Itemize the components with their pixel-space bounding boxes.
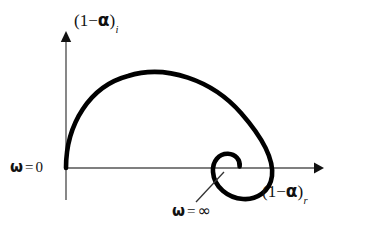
omega-infinity-symbol: ω — [172, 202, 185, 220]
y-axis-label-subscript: i — [115, 24, 118, 35]
figure-container: (1−α)i (1−α)r ω=0 ω=∞ — [0, 0, 378, 230]
omega-zero-annotation: ω=0 — [10, 160, 43, 175]
polar-plot-svg — [0, 0, 378, 230]
omega-infinity-annotation: ω=∞ — [172, 203, 211, 219]
y-axis-label-prefix: (1− — [74, 11, 98, 30]
omega-zero-value: 0 — [36, 159, 44, 175]
x-axis-label: (1−α)r — [262, 183, 307, 204]
x-axis-label-subscript: r — [303, 195, 307, 206]
y-axis-label: (1−α)i — [74, 12, 118, 33]
x-axis-arrowhead-icon — [314, 163, 324, 174]
y-axis-arrowhead-icon — [61, 31, 71, 42]
omega-infinity-equals: = — [185, 203, 197, 219]
omega-infinity-value: ∞ — [198, 201, 211, 220]
omega-zero-symbol: ω — [10, 158, 23, 176]
omega-zero-equals: = — [23, 159, 35, 175]
locus-curve — [66, 72, 272, 199]
y-axis-label-symbol: α — [98, 10, 110, 30]
x-axis-label-symbol: α — [286, 181, 298, 201]
x-axis-label-prefix: (1− — [262, 182, 286, 201]
